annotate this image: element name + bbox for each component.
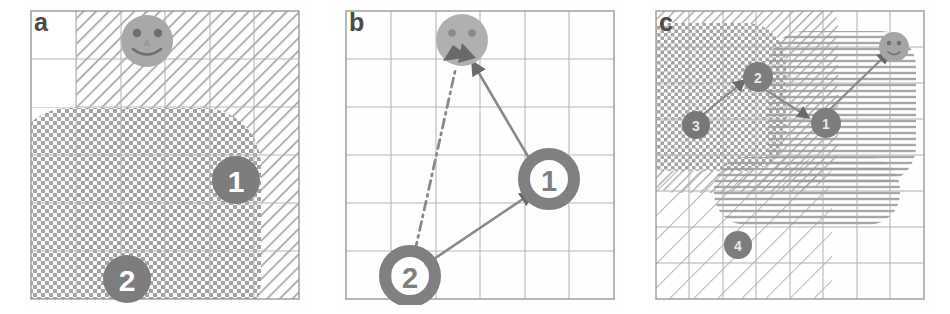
panel-c-plot: 3 2 1 4	[650, 5, 930, 305]
panel-a-smiley-node	[121, 15, 173, 67]
panel-a-label: a	[34, 10, 47, 35]
panel-c-node-2: 2	[743, 62, 773, 92]
panel-c-node-2-label: 2	[754, 70, 762, 86]
panel-b-plot: 1 2	[340, 5, 620, 305]
panel-c-node-1: 1	[811, 108, 841, 138]
panel-c-node-1-label: 1	[822, 116, 830, 132]
panel-c-node-4: 4	[724, 231, 752, 259]
panel-b-node-1-label: 1	[541, 165, 557, 197]
panel-b-node-2: 2	[385, 251, 435, 301]
panel-b: b	[340, 5, 620, 305]
panel-b-node-2-label: 2	[402, 262, 418, 294]
panel-b-svg: 1 2	[340, 5, 620, 305]
panel-a-node-1-label: 1	[228, 165, 245, 198]
panel-c-node-4-label: 4	[734, 238, 742, 254]
panel-c-label: c	[659, 10, 672, 35]
panel-b-smiley-node	[436, 14, 488, 66]
panel-c-crosshatch-region-upper-left	[650, 23, 786, 171]
panel-a-node-1: 1	[212, 156, 260, 204]
panel-a: a	[25, 5, 305, 305]
panel-a-node-2: 2	[103, 255, 151, 303]
panel-a-svg: 1 2	[25, 5, 305, 305]
panel-a-plot: 1 2	[25, 5, 305, 305]
panel-c: c	[650, 5, 930, 305]
panel-c-node-3: 3	[682, 111, 710, 139]
figure-container: a	[0, 0, 950, 314]
panel-c-node-3-label: 3	[692, 118, 700, 134]
panel-b-arrow-node1-to-smiley	[473, 63, 533, 165]
panel-c-svg: 3 2 1 4	[650, 5, 930, 305]
panel-b-arrow-node2-to-node1	[425, 193, 532, 265]
panel-b-label: b	[349, 10, 364, 35]
panel-b-node-1: 1	[524, 154, 574, 204]
panel-c-smiley-node	[879, 32, 909, 62]
panel-a-node-2-label: 2	[119, 264, 136, 297]
